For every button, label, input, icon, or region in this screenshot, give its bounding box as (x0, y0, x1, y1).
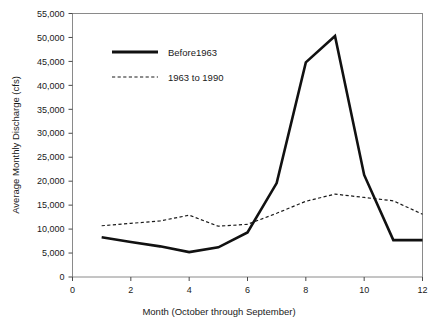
y-tick-label: 10,000 (37, 224, 65, 234)
x-tick-label: 4 (187, 285, 192, 295)
x-tick-label: 10 (359, 285, 369, 295)
legend-label-1963-to-1990: 1963 to 1990 (168, 72, 223, 83)
y-tick-label: 45,000 (37, 57, 65, 67)
y-tick-label: 40,000 (37, 81, 65, 91)
legend-label-before-1963: Before1963 (168, 47, 217, 58)
y-axis-ticks: 05,00010,00015,00020,00025,00030,00035,0… (37, 9, 73, 283)
chart-legend: Before1963 1963 to 1990 (112, 47, 223, 83)
y-tick-label: 0 (59, 272, 64, 282)
chart-figure: 05,00010,00015,00020,00025,00030,00035,0… (0, 0, 440, 324)
data-series-group (102, 36, 423, 252)
y-tick-label: 50,000 (37, 33, 65, 43)
x-tick-label: 6 (245, 285, 250, 295)
y-tick-label: 25,000 (37, 152, 65, 162)
y-axis-title: Average Monthly Discharge (cfs) (10, 76, 21, 214)
x-axis-ticks: 024681012 (70, 277, 428, 295)
x-axis-title: Month (October through September) (142, 306, 295, 317)
y-tick-label: 20,000 (37, 176, 65, 186)
x-tick-label: 12 (417, 285, 427, 295)
x-tick-label: 0 (70, 285, 75, 295)
y-tick-label: 15,000 (37, 200, 65, 210)
x-tick-label: 2 (128, 285, 133, 295)
y-tick-label: 55,000 (37, 9, 65, 19)
series-line-before-1963 (102, 36, 423, 252)
line-chart: 05,00010,00015,00020,00025,00030,00035,0… (0, 0, 440, 324)
y-tick-label: 5,000 (42, 248, 65, 258)
y-tick-label: 35,000 (37, 105, 65, 115)
y-tick-label: 30,000 (37, 128, 65, 138)
x-tick-label: 8 (303, 285, 308, 295)
